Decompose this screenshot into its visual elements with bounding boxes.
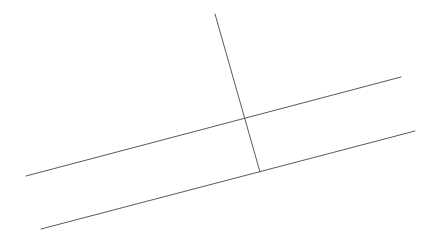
parallel-line-upper: [26, 77, 401, 176]
parallel-line-lower: [41, 131, 415, 229]
transversal-line: [215, 14, 260, 172]
geometry-diagram: [0, 0, 442, 241]
